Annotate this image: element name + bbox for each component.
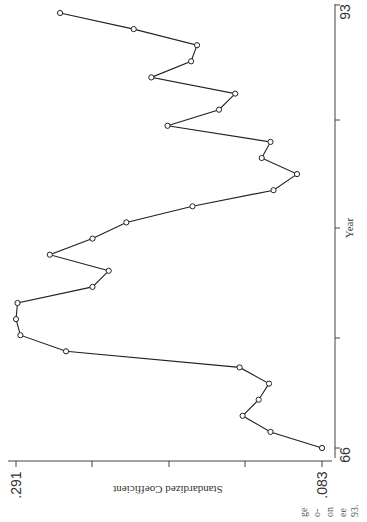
coefficient-axis-title: Standardized Coefficient <box>113 484 222 496</box>
coef-min-label: .083 <box>314 471 330 498</box>
series-markers <box>13 10 324 450</box>
data-point-marker <box>259 155 264 160</box>
data-point-marker <box>271 188 276 193</box>
data-point-marker <box>165 123 170 128</box>
data-point-marker <box>266 381 271 386</box>
coef-max-label: .291 <box>8 471 24 498</box>
data-point-marker <box>194 43 199 48</box>
data-point-marker <box>268 429 273 434</box>
data-point-marker <box>15 300 20 305</box>
data-point-marker <box>149 75 154 80</box>
data-point-marker <box>18 333 23 338</box>
data-point-marker <box>216 107 221 112</box>
data-point-marker <box>237 365 242 370</box>
data-point-marker <box>13 317 18 322</box>
data-point-marker <box>233 91 238 96</box>
series-line <box>16 13 322 448</box>
margin-fragment: ge <box>298 507 309 517</box>
data-point-marker <box>268 139 273 144</box>
data-point-marker <box>256 397 261 402</box>
data-point-marker <box>90 284 95 289</box>
data-point-marker <box>189 59 194 64</box>
margin-text-fragments: geo-onee93. <box>298 505 360 518</box>
data-point-marker <box>63 349 68 354</box>
data-point-marker <box>190 204 195 209</box>
data-series <box>13 10 324 450</box>
data-point-marker <box>90 236 95 241</box>
data-point-marker <box>131 27 136 32</box>
data-point-marker <box>58 10 63 15</box>
data-point-marker <box>106 268 111 273</box>
margin-fragment: o- <box>311 509 322 517</box>
margin-fragment: ee <box>337 508 348 517</box>
data-point-marker <box>47 252 52 257</box>
year-min-label: 66 <box>337 447 353 463</box>
margin-fragment: on <box>324 507 335 517</box>
data-point-marker <box>294 172 299 177</box>
coefficient-axis-ticks <box>16 461 322 467</box>
year-max-label: 93 <box>337 4 353 20</box>
data-point-marker <box>124 220 129 225</box>
margin-fragment: 93. <box>349 505 360 518</box>
data-point-marker <box>319 445 324 450</box>
data-point-marker <box>240 413 245 418</box>
rotated-line-chart: 66 93 Year .291 .083 Standardized Coeffi… <box>0 0 367 522</box>
year-axis-ticks <box>335 5 340 448</box>
year-axis-title: Year <box>343 218 355 239</box>
